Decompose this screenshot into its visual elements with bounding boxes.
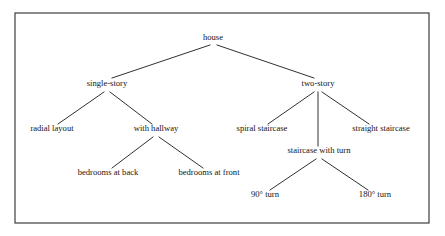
tree-node-staircase-with-turn: staircase with turn (287, 145, 351, 155)
tree-edge-with-hallway-to-bedrooms-at-back (112, 137, 153, 168)
taxonomy-diagram: housesingle-storytwo-storyradial layoutw… (0, 0, 445, 236)
tree-node-turn-90: 90° turn (251, 189, 280, 199)
tree-edge-house-to-two-story (217, 45, 314, 78)
tree-node-single-story: single-story (87, 78, 128, 88)
tree-edge-single-story-to-radial-layout (58, 92, 104, 124)
tree-node-two-story: two-story (302, 78, 336, 88)
tree-edge-two-story-to-spiral-staircase (268, 92, 314, 124)
tree-edge-staircase-with-turn-to-turn-180 (322, 159, 368, 190)
tree-node-spiral-staircase: spiral staircase (237, 123, 288, 133)
tree-node-with-hallway: with hallway (134, 123, 179, 133)
tree-node-straight-staircase: straight staircase (352, 123, 410, 133)
tree-node-radial-layout: radial layout (30, 123, 74, 133)
tree-node-bedrooms-at-front: bedrooms at front (178, 167, 240, 177)
tree-node-house: house (203, 32, 223, 42)
tree-edge-with-hallway-to-bedrooms-at-front (159, 137, 203, 168)
tree-edge-single-story-to-with-hallway (110, 92, 152, 124)
tree-node-turn-180: 180° turn (359, 189, 392, 199)
tree-node-bedrooms-at-back: bedrooms at back (78, 167, 139, 177)
tree-edge-house-to-single-story (112, 45, 210, 78)
tree-edge-staircase-with-turn-to-turn-90 (270, 159, 316, 190)
tree-edge-two-story-to-straight-staircase (322, 92, 369, 124)
tree-canvas: housesingle-storytwo-storyradial layoutw… (0, 0, 445, 236)
tree-node-group: housesingle-storytwo-storyradial layoutw… (30, 32, 410, 199)
